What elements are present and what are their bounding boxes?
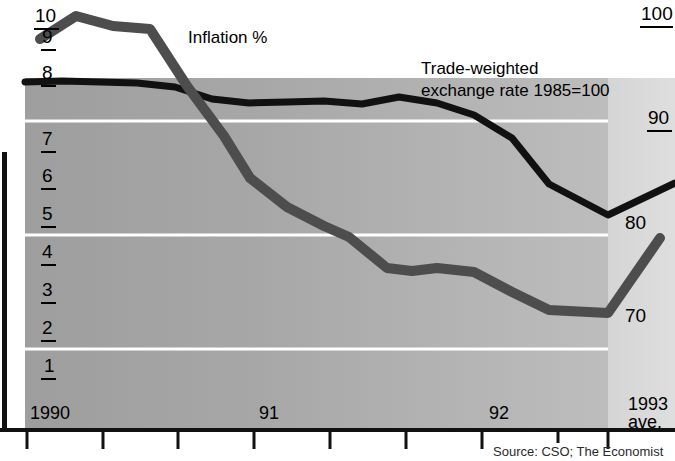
- y-axis-left-tick-8-underline: [41, 85, 56, 87]
- y-axis-left-tick-7: 7: [42, 128, 53, 150]
- y-axis-right-tick-90-underline: [647, 130, 672, 132]
- y-axis-right-tick-100: 100: [641, 3, 673, 25]
- y-axis-left-tick-8: 8: [42, 62, 53, 84]
- y-axis-left-tick-6-underline: [41, 188, 56, 190]
- x-axis-label-ave: ave.: [628, 412, 662, 433]
- y-axis-left-tick-3-underline: [41, 302, 56, 304]
- y-axis-right-tick-90: 90: [648, 107, 669, 129]
- chart-container: 10 9 8 7 6 5 4 3 2 1 100 90 80 70 Inflat…: [0, 0, 675, 461]
- y-axis-left-tick-4: 4: [42, 241, 53, 263]
- y-axis-left-tick-2: 2: [42, 317, 53, 339]
- y-axis-right-tick-100-underline: [640, 26, 673, 28]
- x-axis-label-1990: 1990: [30, 403, 70, 424]
- annotation-exchange-rate-label-line2: exchange rate 1985=100: [421, 80, 610, 101]
- y-axis-left-tick-1-underline: [41, 378, 56, 380]
- source-note: Source: CSO; The Economist: [493, 444, 663, 459]
- y-axis-left-tick-6: 6: [42, 165, 53, 187]
- x-axis-label-92: 92: [489, 403, 509, 424]
- annotation-inflation-label: Inflation %: [188, 27, 267, 48]
- y-axis-left-tick-5-underline: [41, 226, 56, 228]
- plot-background: [25, 78, 675, 428]
- y-axis-left-tick-9: 9: [42, 26, 53, 48]
- y-axis-left-tick-4-underline: [41, 264, 56, 266]
- y-axis-right-tick-80: 80: [625, 212, 646, 234]
- annotation-exchange-rate-label-line1: Trade-weighted: [421, 58, 539, 79]
- y-axis-left-tick-5: 5: [42, 203, 53, 225]
- y-axis-left-tick-9-underline: [41, 49, 56, 51]
- y-axis-right-tick-70: 70: [625, 305, 646, 327]
- left-axis-bar: [2, 152, 7, 432]
- y-axis-left-tick-7-underline: [41, 151, 56, 153]
- y-axis-left-tick-2-underline: [41, 340, 56, 342]
- y-axis-left-tick-3: 3: [42, 279, 53, 301]
- x-axis-label-91: 91: [259, 403, 279, 424]
- y-axis-left-tick-10: 10: [35, 5, 56, 27]
- y-axis-left-tick-1: 1: [44, 355, 55, 377]
- chart-plot: [0, 0, 675, 461]
